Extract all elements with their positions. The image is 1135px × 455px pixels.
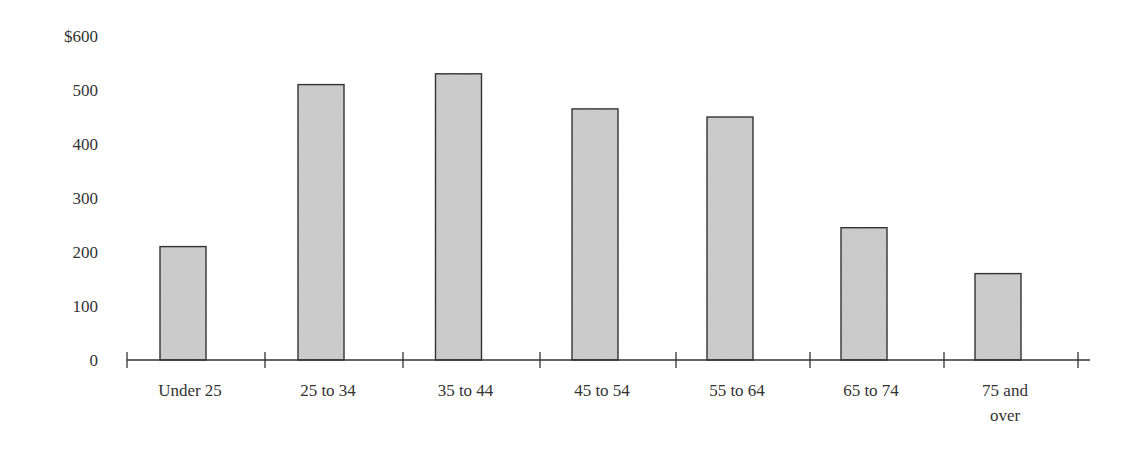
bar xyxy=(298,85,344,360)
x-tick-label: 65 to 74 xyxy=(843,381,899,400)
bar xyxy=(841,228,887,360)
bar-chart: 0100200300400500$600 Under 2525 to 3435 … xyxy=(0,0,1135,455)
x-tick-label: 45 to 54 xyxy=(574,381,630,400)
x-axis-labels: Under 2525 to 3435 to 4445 to 5455 to 64… xyxy=(158,381,1028,425)
bar xyxy=(572,109,618,360)
y-tick-label: 500 xyxy=(73,81,99,100)
x-tick-label: 25 to 34 xyxy=(300,381,356,400)
x-tick-label: 75 and xyxy=(982,381,1028,400)
y-tick-label: 300 xyxy=(73,189,99,208)
bar xyxy=(436,74,482,360)
y-tick-label: 400 xyxy=(73,135,99,154)
bar xyxy=(707,117,753,360)
y-tick-label: 0 xyxy=(90,351,99,370)
bar xyxy=(160,247,206,360)
x-tick-label: over xyxy=(990,406,1021,425)
x-tick-label: 55 to 64 xyxy=(709,381,765,400)
x-tick-label: Under 25 xyxy=(158,381,222,400)
bar xyxy=(975,274,1021,360)
y-tick-label: 200 xyxy=(73,243,99,262)
y-tick-label: $600 xyxy=(64,27,98,46)
y-tick-label: 100 xyxy=(73,297,99,316)
bars xyxy=(160,74,1021,360)
y-axis-labels: 0100200300400500$600 xyxy=(64,27,98,370)
x-tick-label: 35 to 44 xyxy=(438,381,494,400)
